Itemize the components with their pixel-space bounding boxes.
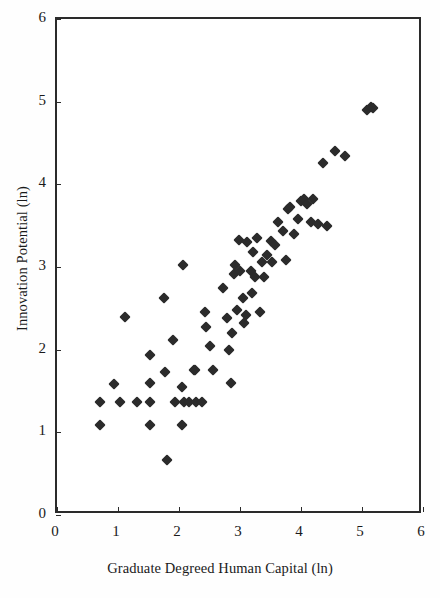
data-point	[144, 377, 155, 388]
data-point	[321, 220, 332, 231]
x-tick-mark	[57, 507, 58, 512]
data-point	[317, 157, 328, 168]
x-tick-label: 1	[101, 524, 131, 539]
data-point	[259, 271, 270, 282]
data-point	[197, 396, 208, 407]
data-point	[248, 246, 259, 257]
y-tick-mark	[56, 184, 61, 185]
data-point	[261, 250, 272, 261]
data-point	[245, 265, 256, 276]
data-point	[184, 396, 195, 407]
data-point	[190, 396, 201, 407]
x-tick-label: 3	[223, 524, 253, 539]
data-point	[176, 381, 187, 392]
data-point	[282, 203, 293, 214]
x-tick-label: 6	[406, 524, 436, 539]
data-point	[312, 218, 323, 229]
data-point	[280, 255, 291, 266]
x-tick-mark	[240, 507, 241, 512]
data-point	[298, 194, 309, 205]
data-point	[201, 321, 212, 332]
data-point	[247, 288, 258, 299]
data-point	[301, 198, 312, 209]
data-point	[292, 213, 303, 224]
y-tick-mark	[56, 432, 61, 433]
data-point	[240, 309, 251, 320]
data-point	[254, 307, 265, 318]
data-point	[256, 256, 267, 267]
data-point	[365, 102, 376, 113]
data-point	[176, 419, 187, 430]
data-point	[284, 202, 295, 213]
data-point	[178, 260, 189, 271]
data-point	[251, 232, 262, 243]
data-point	[169, 396, 180, 407]
data-point	[189, 364, 200, 375]
x-tick-mark	[118, 507, 119, 512]
x-tick-mark	[301, 507, 302, 512]
y-tick-mark	[56, 267, 61, 268]
x-tick-mark	[423, 507, 424, 512]
data-point	[267, 256, 278, 267]
x-axis-label: Graduate Degreed Human Capital (ln)	[0, 560, 440, 577]
data-point	[222, 313, 233, 324]
y-tick-mark	[56, 350, 61, 351]
data-point	[144, 350, 155, 361]
data-point	[144, 419, 155, 430]
y-axis-label-wrapper: Innovation Potential (ln)	[0, 0, 30, 530]
data-point	[270, 239, 281, 250]
data-point	[277, 225, 288, 236]
data-point	[167, 334, 178, 345]
data-point	[233, 234, 244, 245]
data-point	[207, 365, 218, 376]
data-point	[234, 265, 245, 276]
scatter-plot-figure: 0123456 0123456 Graduate Degreed Human C…	[0, 0, 440, 598]
data-point	[225, 377, 236, 388]
data-point	[305, 216, 316, 227]
data-point	[94, 419, 105, 430]
data-point	[223, 344, 234, 355]
y-tick-mark	[56, 19, 61, 20]
x-tick-label: 5	[345, 524, 375, 539]
data-point	[204, 340, 215, 351]
y-tick-mark	[56, 102, 61, 103]
plot-area	[55, 17, 421, 513]
x-tick-mark	[179, 507, 180, 512]
data-point	[114, 396, 125, 407]
data-point	[367, 103, 378, 114]
data-point	[265, 235, 276, 246]
y-tick-mark	[56, 515, 61, 516]
data-point	[231, 304, 242, 315]
data-point	[361, 104, 372, 115]
data-point	[217, 282, 228, 293]
data-point	[242, 237, 253, 248]
data-point	[237, 293, 248, 304]
data-point	[288, 228, 299, 239]
data-point	[144, 396, 155, 407]
data-point	[131, 396, 142, 407]
x-tick-mark	[362, 507, 363, 512]
x-tick-label: 0	[40, 524, 70, 539]
data-point	[189, 364, 200, 375]
x-tick-label: 4	[284, 524, 314, 539]
y-axis-label: Innovation Potential (ln)	[14, 99, 31, 419]
data-point	[199, 307, 210, 318]
data-point	[119, 312, 130, 323]
data-point	[308, 194, 319, 205]
data-point	[339, 151, 350, 162]
data-point	[239, 318, 250, 329]
data-point	[161, 454, 172, 465]
data-point	[108, 379, 119, 390]
data-point	[226, 327, 237, 338]
data-point	[178, 396, 189, 407]
data-point	[228, 268, 239, 279]
x-tick-label: 2	[162, 524, 192, 539]
data-point	[229, 260, 240, 271]
data-points-layer	[57, 19, 419, 511]
data-point	[272, 216, 283, 227]
data-point	[158, 292, 169, 303]
data-point	[250, 271, 261, 282]
data-point	[295, 195, 306, 206]
data-point	[94, 396, 105, 407]
data-point	[329, 146, 340, 157]
